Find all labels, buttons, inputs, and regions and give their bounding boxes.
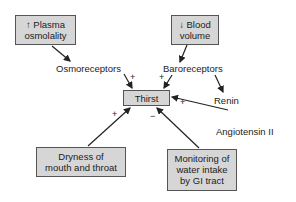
monitoring-minus-sign: − — [150, 112, 155, 121]
baro-plus-sign: + — [159, 73, 164, 82]
monitoring-box: Monitoring of water intake by GI tract — [167, 149, 237, 191]
renin-label: Renin — [214, 95, 239, 106]
dryness-box: Dryness of mouth and throat — [36, 147, 126, 177]
angiotensin-label: Angiotensin II — [216, 126, 274, 137]
up-arrow-icon: ↑ — [26, 19, 31, 30]
blood-volume-box: ↓ Blood volume — [171, 15, 219, 45]
baroreceptors-label: Baroreceptors — [163, 63, 223, 74]
osmo-plus-sign: + — [130, 73, 135, 82]
osmoreceptors-label: Osmoreceptors — [56, 63, 121, 74]
plasma-osmolality-box: ↑ Plasma osmolality — [15, 15, 76, 45]
dryness-plus-sign: + — [112, 110, 117, 119]
down-arrow-icon: ↓ — [179, 19, 184, 30]
angio-plus-sign: + — [180, 98, 185, 107]
thirst-box: Thirst — [123, 90, 170, 106]
